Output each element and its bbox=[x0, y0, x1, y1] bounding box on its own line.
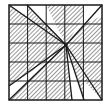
hatched-grid-diagram bbox=[0, 0, 107, 108]
focal-point bbox=[64, 43, 68, 47]
